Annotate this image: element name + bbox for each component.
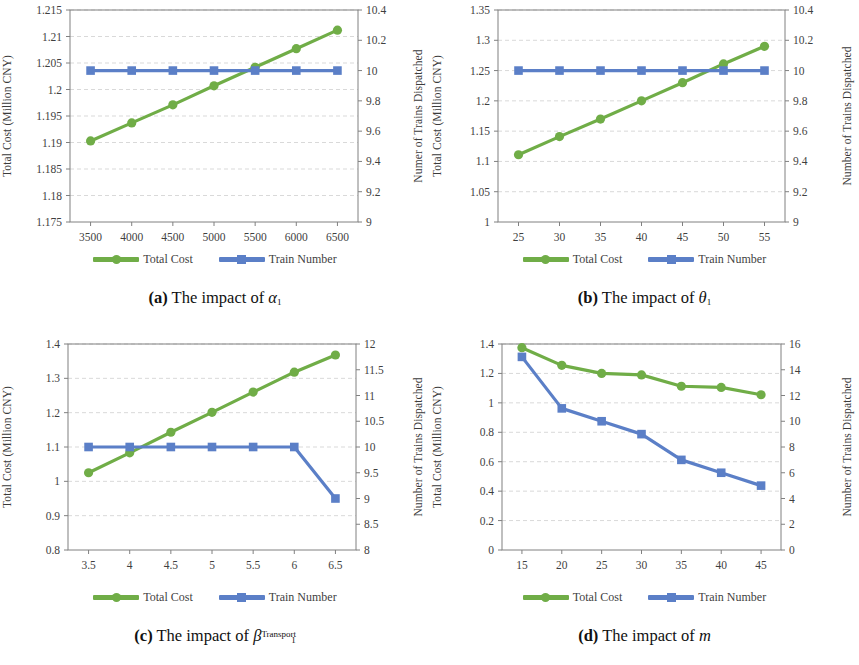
data-point-marker <box>207 408 216 417</box>
data-point-marker <box>677 456 686 465</box>
caption-symbol: m <box>699 626 711 645</box>
x-axis-tick-label: 35 <box>595 231 607 243</box>
data-point-marker <box>678 78 687 87</box>
x-axis-tick-label: 15 <box>516 559 528 571</box>
legend: Total CostTrain Number <box>430 590 859 605</box>
y2-axis-tick-label: 0 <box>789 544 795 556</box>
y2-axis-tick-label: 9.8 <box>793 95 807 107</box>
y-axis-tick-label: 1.3 <box>430 34 490 46</box>
y2-axis-tick-label: 9.8 <box>366 95 380 107</box>
data-point-marker <box>166 428 175 437</box>
data-point-marker <box>127 118 136 127</box>
y-axis-tick-label: 1.215 <box>0 4 62 16</box>
data-point-marker <box>84 468 93 477</box>
data-point-marker <box>208 443 217 452</box>
data-point-marker <box>637 370 646 379</box>
x-axis-tick-label: 4 <box>127 559 133 571</box>
legend: Total CostTrain Number <box>0 590 430 605</box>
y2-axis-tick-label: 2 <box>789 518 795 530</box>
y2-axis-title: Number of Trains Dispatched <box>412 377 424 516</box>
caption-letter: (c) <box>134 626 152 645</box>
y-axis-tick-label: 1.18 <box>0 190 62 202</box>
panel-caption-a: (a) The impact of α1 <box>0 288 430 308</box>
y2-axis-tick-label: 9 <box>793 216 799 228</box>
chart-c: 0.80.911.11.21.31.488.599.51010.51111.51… <box>0 330 430 665</box>
y2-axis-tick-label: 9.4 <box>793 155 807 167</box>
caption-subscript: 1 <box>707 297 712 307</box>
y2-axis-tick-label: 9.6 <box>793 125 807 137</box>
y-axis-tick-label: 0 <box>430 544 494 556</box>
legend-marker <box>112 593 121 602</box>
data-point-marker <box>167 443 176 452</box>
x-axis-tick-label: 30 <box>554 231 566 243</box>
legend-label: Train Number <box>698 590 766 605</box>
x-axis-tick-label: 4.5 <box>164 559 178 571</box>
legend-item-total-cost: Total Cost <box>523 252 623 267</box>
y2-axis-tick-label: 12 <box>364 338 376 350</box>
panel-d: 00.20.40.60.811.21.402468101214161520253… <box>430 330 859 665</box>
data-point-marker <box>86 66 95 75</box>
y2-axis-tick-label: 10 <box>789 415 801 427</box>
data-point-marker <box>331 494 340 503</box>
legend-line-circle-icon <box>93 257 139 262</box>
y2-axis-tick-label: 9.4 <box>366 155 380 167</box>
legend-line-circle-icon <box>93 595 139 600</box>
panel-caption-b: (b) The impact of θ1 <box>430 288 859 308</box>
legend-marker <box>541 255 550 264</box>
legend: Total CostTrain Number <box>430 252 859 267</box>
x-axis-tick-label: 6500 <box>326 231 349 243</box>
data-point-marker <box>597 417 606 426</box>
y2-axis-tick-label: 11 <box>364 390 375 402</box>
y-axis-title: Total Cost (Million CNY) <box>431 55 443 177</box>
x-axis-tick-label: 4500 <box>161 231 184 243</box>
legend-item-total-cost: Total Cost <box>523 590 623 605</box>
data-point-marker <box>169 66 178 75</box>
y2-axis-tick-label: 16 <box>789 338 801 350</box>
x-axis-tick-label: 45 <box>755 559 767 571</box>
data-point-marker <box>127 66 136 75</box>
legend-label: Train Number <box>698 252 766 267</box>
panel-caption-c: (c) The impact of βTransport1 <box>0 626 430 646</box>
legend-label: Total Cost <box>143 590 193 605</box>
legend-label: Total Cost <box>143 252 193 267</box>
y-axis-tick-label: 1.175 <box>0 216 62 228</box>
y2-axis-tick-label: 9 <box>364 493 370 505</box>
data-point-marker <box>678 66 687 75</box>
caption-letter: (a) <box>149 288 168 307</box>
data-point-marker <box>717 383 726 392</box>
data-point-marker <box>637 430 646 439</box>
y2-axis-tick-label: 10.5 <box>364 415 384 427</box>
y2-axis-tick-label: 8.5 <box>364 518 378 530</box>
data-point-marker <box>168 100 177 109</box>
caption-letter: (b) <box>578 288 598 307</box>
y-axis-tick-label: 0.8 <box>0 544 60 556</box>
legend-line-square-icon <box>648 257 694 262</box>
x-axis-tick-label: 35 <box>676 559 688 571</box>
panel-c: 0.80.911.11.21.31.488.599.51010.51111.51… <box>0 330 430 665</box>
y2-axis-tick-label: 10 <box>366 65 378 77</box>
legend-item-train-number: Train Number <box>219 252 337 267</box>
data-point-marker <box>557 361 566 370</box>
legend: Total CostTrain Number <box>0 252 430 267</box>
y-axis-tick-label: 1.21 <box>0 31 62 43</box>
y-axis-tick-label: 0.2 <box>430 515 494 527</box>
x-axis-tick-label: 6000 <box>285 231 308 243</box>
x-axis-tick-label: 30 <box>636 559 648 571</box>
data-point-marker <box>719 66 728 75</box>
data-point-marker <box>251 66 260 75</box>
caption-subscript: 1 <box>277 297 282 307</box>
legend-item-train-number: Train Number <box>648 590 766 605</box>
data-point-marker <box>637 96 646 105</box>
legend-line-square-icon <box>648 595 694 600</box>
x-axis-tick-label: 5000 <box>203 231 226 243</box>
y2-axis-tick-label: 14 <box>789 364 801 376</box>
y-axis-title: Total Cost (Million CNY) <box>1 386 13 508</box>
legend-label: Train Number <box>269 252 337 267</box>
data-point-marker <box>292 66 301 75</box>
x-axis-tick-label: 4000 <box>120 231 143 243</box>
legend-label: Total Cost <box>573 590 623 605</box>
y2-axis-tick-label: 10 <box>364 441 376 453</box>
y-axis-tick-label: 1.4 <box>430 338 494 350</box>
chart-a: 1.1751.181.1851.191.1951.21.2051.211.215… <box>0 0 430 330</box>
data-point-marker <box>677 382 686 391</box>
